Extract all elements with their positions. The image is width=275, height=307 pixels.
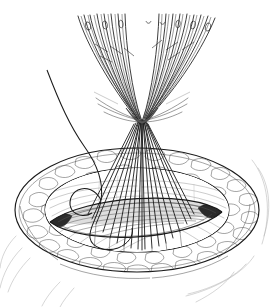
illustration-canvas (0, 0, 275, 307)
surgical-illustration-figure (0, 0, 275, 307)
